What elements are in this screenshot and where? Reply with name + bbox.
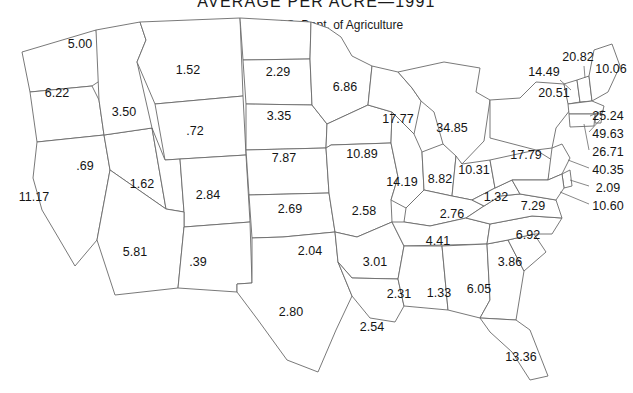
value-label-la: 2.31 xyxy=(387,287,411,301)
value-label-ct: 26.71 xyxy=(592,145,623,159)
value-label-fl: 13.36 xyxy=(505,350,536,364)
value-label-or: 6.22 xyxy=(45,86,69,100)
value-label-co: 2.84 xyxy=(196,188,220,202)
state-mt xyxy=(137,18,243,104)
value-label-ia: 10.89 xyxy=(346,147,377,161)
state-fl xyxy=(480,318,548,380)
value-label-mt: 1.52 xyxy=(176,63,200,77)
value-label-de: 2.09 xyxy=(596,181,620,195)
value-label-az: 5.81 xyxy=(123,245,147,259)
value-label-ne: 7.87 xyxy=(272,151,296,165)
value-label-vt: 14.49 xyxy=(528,65,559,79)
leader-nj xyxy=(568,160,589,168)
value-label-nc: 6.92 xyxy=(516,228,540,242)
state-tx xyxy=(237,232,352,372)
value-label-tx: 2.80 xyxy=(279,305,303,319)
value-label-mo: 2.58 xyxy=(352,204,376,218)
value-label-mn: 6.86 xyxy=(333,80,357,94)
value-label-ma: 25.24 xyxy=(592,109,623,123)
value-label-il: 14.19 xyxy=(386,175,417,189)
value-label-wi: 17.77 xyxy=(382,112,413,126)
value-label-ut: 1.62 xyxy=(130,177,154,191)
value-label-pa: 17.79 xyxy=(510,148,541,162)
state-in xyxy=(422,144,456,196)
value-label-id: 3.50 xyxy=(112,105,136,119)
value-label-oh: 10.31 xyxy=(458,163,489,177)
value-label-wv: 1.32 xyxy=(484,190,508,204)
value-label-nm: .39 xyxy=(189,255,206,269)
value-label-al: 6.05 xyxy=(467,282,491,296)
value-label-nv: .69 xyxy=(76,159,93,173)
value-label-ky: 2.76 xyxy=(440,207,464,221)
map-page: AVERAGE PER ACRE—1991 Source: U.S. Dept.… xyxy=(0,0,633,393)
value-label-ok: 2.04 xyxy=(298,244,322,258)
value-label-ga: 2.54 xyxy=(360,320,384,334)
value-label-mi: 34.85 xyxy=(436,121,467,135)
value-label-me: 10.06 xyxy=(595,62,626,76)
value-label-in: 8.82 xyxy=(428,172,452,186)
value-label-va: 7.29 xyxy=(521,199,545,213)
value-label-wa: 5.00 xyxy=(68,37,92,51)
leader-ct xyxy=(584,124,589,150)
leader-de xyxy=(570,180,589,186)
value-label-sd: 3.35 xyxy=(267,109,291,123)
value-label-nj: 40.35 xyxy=(592,163,623,177)
leader-md xyxy=(560,192,589,204)
us-map xyxy=(0,0,633,393)
value-label-ks: 2.69 xyxy=(278,202,302,216)
state-nd xyxy=(240,18,311,60)
leader-nh xyxy=(584,66,585,78)
value-label-ms: 1.33 xyxy=(427,286,451,300)
value-label-nh: 20.82 xyxy=(562,50,593,64)
us-map-svg xyxy=(0,0,633,393)
value-label-ar: 3.01 xyxy=(363,255,387,269)
value-label-ca: 11.17 xyxy=(19,190,49,204)
value-label-nd: 2.29 xyxy=(266,65,290,79)
value-label-ri: 49.63 xyxy=(592,127,623,141)
state-al xyxy=(442,244,490,318)
value-label-wy: .72 xyxy=(186,124,203,138)
value-label-tn: 4.41 xyxy=(426,234,450,248)
value-label-sc: 3.86 xyxy=(498,255,522,269)
value-label-md: 10.60 xyxy=(592,199,623,213)
value-label-ny: 20.51 xyxy=(538,86,569,100)
